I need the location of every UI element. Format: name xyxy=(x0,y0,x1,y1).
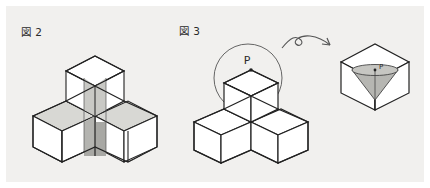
figure-canvas xyxy=(6,6,424,182)
figure-3-label: 図 3 xyxy=(179,26,201,37)
figure-2-label: 図 2 xyxy=(21,27,43,38)
figure-panel: 図 2 図 3 xyxy=(0,0,430,188)
